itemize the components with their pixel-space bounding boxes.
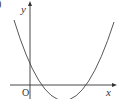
y-axis-label: y xyxy=(20,3,26,15)
y-axis-arrow-icon xyxy=(28,1,32,6)
origin-label: O xyxy=(22,87,29,98)
x-axis-arrow-icon xyxy=(112,83,117,87)
parabola-diagram: y x O ) xyxy=(0,0,117,99)
x-axis-label: x xyxy=(105,86,111,98)
corner-fragment: ) xyxy=(0,0,1,10)
